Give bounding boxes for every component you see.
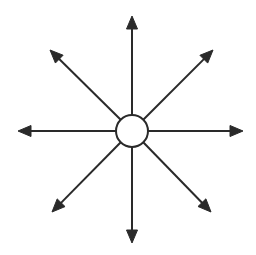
center-hub-group (116, 115, 148, 147)
radial-arrow-diagram (0, 0, 256, 255)
center-hub-circle (116, 115, 148, 147)
diagram-canvas (0, 0, 256, 255)
